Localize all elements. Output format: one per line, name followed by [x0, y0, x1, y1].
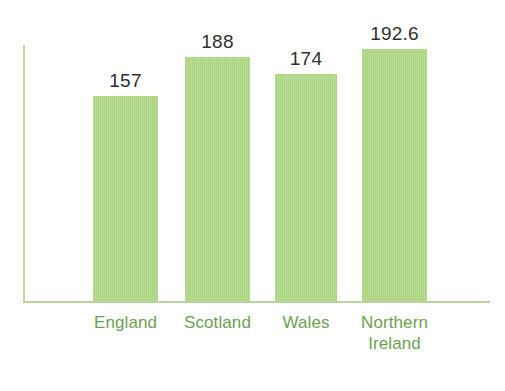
x-axis-label-scotland: Scotland — [165, 312, 270, 333]
bar-england[interactable] — [93, 96, 158, 303]
x-axis-label-wales: Wales — [256, 312, 356, 333]
bar-chart: 157 188 174 192.6 England Scotland Wales… — [0, 0, 505, 391]
bar-value-scotland: 188 — [201, 32, 233, 51]
plot-area: 157 188 174 192.6 — [0, 0, 505, 303]
bar-group-wales: 174 — [275, 74, 337, 303]
x-axis-label-northern-ireland-line1: Northern — [361, 313, 428, 332]
bar-group-england: 157 — [93, 96, 158, 303]
x-axis-line — [23, 301, 490, 303]
x-axis-label-northern-ireland-line2: Ireland — [342, 333, 447, 354]
bar-value-northern-ireland: 192.6 — [370, 24, 419, 43]
x-axis-label-northern-ireland: Northern Ireland — [342, 312, 447, 354]
bar-group-scotland: 188 — [185, 57, 250, 303]
x-axis-label-england-line1: England — [94, 313, 157, 332]
bar-group-northern-ireland: 192.6 — [362, 49, 427, 303]
bar-scotland[interactable] — [185, 57, 250, 303]
x-axis-label-wales-line1: Wales — [282, 313, 329, 332]
bar-northern-ireland[interactable] — [362, 49, 427, 303]
x-axis-category-labels: England Scotland Wales Northern Ireland — [0, 312, 505, 388]
bar-wales[interactable] — [275, 74, 337, 303]
bar-value-england: 157 — [109, 71, 141, 90]
y-axis-line — [23, 45, 25, 303]
x-axis-label-scotland-line1: Scotland — [184, 313, 251, 332]
x-axis-label-england: England — [73, 312, 178, 333]
bar-value-wales: 174 — [290, 49, 322, 68]
